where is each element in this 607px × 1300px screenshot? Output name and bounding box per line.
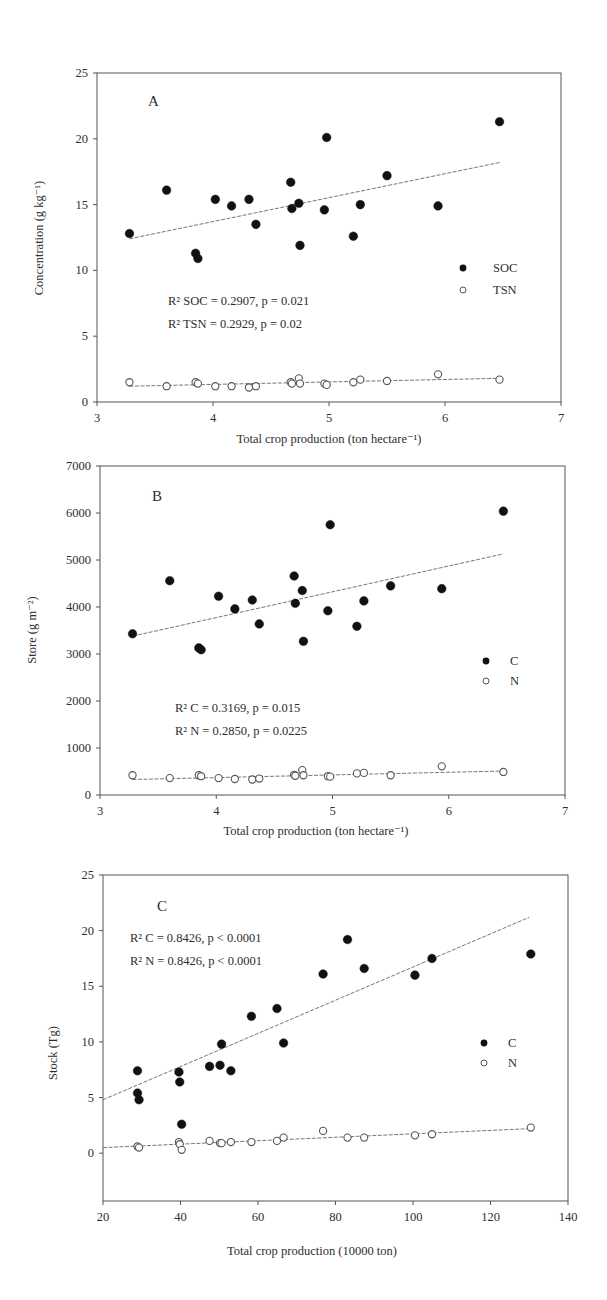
data-point-n xyxy=(248,1138,255,1145)
data-point-n xyxy=(428,1131,435,1138)
data-point-c xyxy=(247,1012,256,1021)
data-point-soc xyxy=(162,186,171,195)
y-tick-label: 7000 xyxy=(66,459,91,473)
legend-filled-circle-icon xyxy=(483,658,490,665)
x-tick-label: 5 xyxy=(329,804,335,818)
panel-c-x-axis-label: Total crop production (10000 ton) xyxy=(227,1244,397,1258)
x-tick-label: 100 xyxy=(404,1210,423,1224)
data-point-n xyxy=(249,776,256,783)
data-point-soc xyxy=(383,171,392,180)
data-point-c xyxy=(386,582,395,591)
y-tick-label: 0 xyxy=(82,395,88,409)
data-point-c xyxy=(135,1095,144,1104)
plot-frame xyxy=(97,73,561,402)
data-point-n xyxy=(280,1134,287,1141)
legend-open-circle-icon xyxy=(483,678,489,684)
data-point-n xyxy=(129,772,136,779)
data-point-c xyxy=(175,1078,184,1087)
data-point-soc xyxy=(320,206,329,215)
x-tick-label: 40 xyxy=(174,1210,187,1224)
data-point-soc xyxy=(245,195,254,204)
y-tick-label: 15 xyxy=(76,198,89,212)
x-tick-label: 140 xyxy=(559,1210,578,1224)
y-tick-label: 2000 xyxy=(66,694,91,708)
x-tick-label: 7 xyxy=(558,411,564,425)
plot-frame xyxy=(103,875,568,1201)
data-point-tsn xyxy=(163,383,170,390)
data-point-n xyxy=(320,1127,327,1134)
panel-a-y-axis-label: Concentration (g kg⁻¹) xyxy=(32,181,46,295)
y-tick-label: 5000 xyxy=(66,553,91,567)
x-tick-label: 3 xyxy=(97,804,103,818)
x-tick-label: 6 xyxy=(446,804,452,818)
panel-c-legend: C N xyxy=(481,1036,517,1070)
data-point-n xyxy=(135,1144,142,1151)
data-point-c xyxy=(165,576,174,585)
data-point-c xyxy=(437,584,446,593)
trendline-n xyxy=(133,771,504,779)
x-tick-label: 4 xyxy=(210,411,217,425)
panel-c-letter: C xyxy=(157,898,167,914)
data-point-c xyxy=(299,637,308,646)
data-point-tsn xyxy=(323,381,330,388)
data-point-c xyxy=(217,1040,226,1049)
data-point-c xyxy=(231,605,240,614)
legend-label-n: N xyxy=(508,1056,517,1070)
data-point-n xyxy=(227,1138,234,1145)
data-point-c xyxy=(279,1039,288,1048)
y-tick-label: 10 xyxy=(82,1035,95,1049)
data-point-c xyxy=(227,1067,236,1076)
panel-a-chart: 345670510152025 A R² SOC = 0.2907, p = 0… xyxy=(32,66,564,446)
trendline-c xyxy=(133,554,504,636)
legend-label-tsn: TSN xyxy=(493,283,517,297)
data-point-n xyxy=(438,763,445,770)
legend-label-soc: SOC xyxy=(493,261,517,275)
y-tick-label: 20 xyxy=(82,924,95,938)
y-tick-label: 4000 xyxy=(66,600,91,614)
panel-b-annotation-n: R² N = 0.2850, p = 0.0225 xyxy=(175,724,307,738)
legend-open-circle-icon xyxy=(460,287,466,293)
data-point-c xyxy=(255,620,264,629)
data-point-soc xyxy=(295,199,304,208)
plot-frame xyxy=(100,466,565,795)
data-point-tsn xyxy=(126,379,133,386)
data-point-c xyxy=(175,1068,184,1077)
data-point-n xyxy=(256,775,263,782)
data-point-n xyxy=(178,1146,185,1153)
data-point-c xyxy=(248,596,257,605)
panel-c-chart: 204060801001201400510152025 C R² C = 0.8… xyxy=(46,868,577,1258)
legend-filled-circle-icon xyxy=(460,265,467,272)
y-tick-label: 5 xyxy=(82,329,88,343)
x-tick-label: 7 xyxy=(562,804,568,818)
panel-b-legend: C N xyxy=(483,654,519,688)
trendline-tsn xyxy=(129,378,499,386)
data-point-soc xyxy=(227,202,236,211)
panel-c-y-axis-label: Stock (Tg) xyxy=(46,1026,60,1080)
data-point-c xyxy=(214,592,223,601)
trendline-soc xyxy=(129,162,499,238)
data-point-n xyxy=(206,1137,213,1144)
data-point-n xyxy=(292,772,299,779)
data-point-n xyxy=(411,1132,418,1139)
data-point-tsn xyxy=(245,384,252,391)
data-point-tsn xyxy=(434,371,441,378)
panel-b-plot-area: 3456701000200030004000500060007000 xyxy=(66,459,568,818)
panel-a-annotation-tsn: R² TSN = 0.2929, p = 0.02 xyxy=(168,317,302,331)
x-tick-label: 5 xyxy=(326,411,332,425)
panel-b-letter: B xyxy=(152,488,162,504)
data-point-soc xyxy=(286,178,295,187)
trendline-n xyxy=(103,1129,529,1148)
data-point-soc xyxy=(495,117,504,126)
data-point-c xyxy=(360,964,369,973)
y-tick-label: 5 xyxy=(88,1091,94,1105)
data-point-n xyxy=(527,1124,534,1131)
data-point-c xyxy=(291,599,300,608)
data-point-c xyxy=(216,1061,225,1070)
panel-b-annotation-c: R² C = 0.3169, p = 0.015 xyxy=(175,701,300,715)
y-tick-label: 3000 xyxy=(66,647,91,661)
x-tick-label: 20 xyxy=(97,1210,110,1224)
data-point-tsn xyxy=(228,383,235,390)
data-point-n xyxy=(500,768,507,775)
y-tick-label: 25 xyxy=(82,868,95,882)
y-tick-label: 25 xyxy=(76,66,89,80)
